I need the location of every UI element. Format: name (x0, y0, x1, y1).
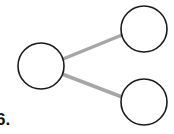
node-left (18, 43, 64, 89)
diagram-graphic (0, 0, 174, 134)
node-bottom-right (121, 79, 167, 125)
tree-diagram: 6. (0, 0, 174, 134)
edge-left-to-bottom-right (62, 74, 122, 97)
node-top-right (121, 6, 167, 52)
problem-number-label: 6. (0, 110, 10, 130)
edge-left-to-top-right (63, 35, 122, 59)
